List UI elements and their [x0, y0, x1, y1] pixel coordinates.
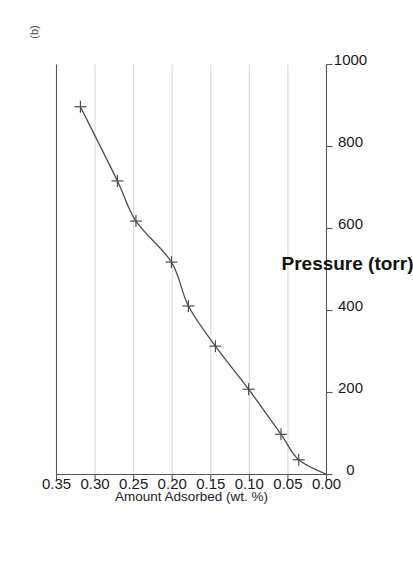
plot-grid: [57, 64, 288, 474]
data-point-marker: [130, 215, 142, 227]
data-point-marker: [74, 100, 86, 112]
axis-titles: Pressure (torr) Amount Adsorbed (wt. %): [115, 252, 413, 503]
data-point-marker: [275, 428, 287, 440]
y-tick-label: 0.30: [80, 474, 109, 491]
isotherm-chart: 02004006008001000 0.000.050.100.150.200.…: [42, 44, 355, 514]
y-tick-label: 0.05: [273, 474, 302, 491]
x-tick-label: 0: [346, 460, 354, 477]
y-tick-label: 0.35: [42, 474, 71, 491]
data-point-marker: [182, 299, 194, 311]
data-point-marker: [111, 174, 123, 186]
x-tick-label: 800: [338, 132, 363, 149]
isotherm-curve: [80, 106, 326, 474]
chart-stage: 02004006008001000 0.000.050.100.150.200.…: [42, 44, 355, 514]
y-axis-title: Amount Adsorbed (wt. %): [115, 488, 268, 503]
x-tick-label: 400: [338, 296, 363, 313]
x-tick-label: 1000: [334, 50, 367, 67]
figure-root: (b) 02004006008001000: [0, 0, 413, 577]
data-series: [74, 100, 326, 474]
data-point-marker: [165, 256, 177, 268]
x-tick-label: 200: [338, 378, 363, 395]
y-tick-label: 0.00: [312, 474, 341, 491]
x-tick-label: 600: [338, 214, 363, 231]
x-axis-title: Pressure (torr): [282, 252, 413, 273]
